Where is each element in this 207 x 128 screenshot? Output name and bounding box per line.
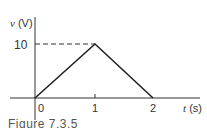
x-unit: (s) (189, 102, 202, 114)
y-unit: (V) (18, 17, 33, 29)
y-axis-label: v (V) (10, 18, 33, 29)
x-tick-1-label: 1 (92, 103, 98, 114)
x-tick-0: 0 (38, 103, 44, 114)
y-tick-10: 10 (14, 39, 27, 51)
triangle-waveform (35, 44, 153, 98)
x-axis-label: t (s) (183, 103, 202, 114)
figure-caption: Figure 7.3.5 (8, 117, 78, 128)
x-variable: t (183, 102, 186, 114)
y-variable: v (10, 17, 15, 29)
x-tick-2: 2 (150, 103, 156, 114)
